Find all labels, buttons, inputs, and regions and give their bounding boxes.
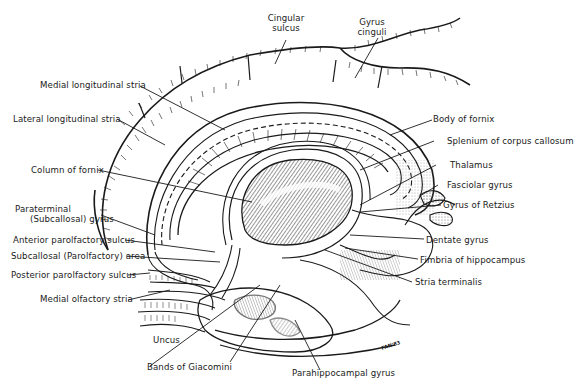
label-anterior-parolfactory-sulcus: Anterior parolfactory sulcus bbox=[13, 235, 135, 245]
label-line: Gyrus bbox=[358, 17, 387, 27]
label-posterior-parolfactory-sulcus: Posterior parolfactory sulcus bbox=[11, 270, 136, 280]
label-line: (Subcallosal) gyrus bbox=[15, 214, 114, 224]
thalamus bbox=[223, 141, 370, 258]
label-line: sulcus bbox=[268, 23, 305, 33]
label-line: Paraterminal bbox=[15, 204, 114, 214]
label-splenium: Splenium of corpus callosum bbox=[447, 136, 574, 146]
label-paraterminal-gyrus: Paraterminal (Subcallosal) gyrus bbox=[15, 204, 114, 224]
label-fimbria: Fimbria of hippocampus bbox=[420, 255, 525, 265]
label-parahippocampal-gyrus: Parahippocampal gyrus bbox=[292, 368, 395, 378]
label-cingular-sulcus: Cingular sulcus bbox=[268, 13, 305, 33]
label-line: cinguli bbox=[358, 27, 387, 37]
label-stria-terminalis: Stria terminalis bbox=[415, 277, 482, 287]
anatomy-diagram: Cingular sulcus Gyrus cinguli Medial lon… bbox=[0, 0, 574, 381]
label-thalamus: Thalamus bbox=[450, 160, 493, 170]
olfactory-structures bbox=[138, 270, 225, 332]
label-gyrus-cinguli: Gyrus cinguli bbox=[358, 17, 387, 37]
label-bands-of-giacomini: Bands of Giacomini bbox=[147, 362, 232, 372]
label-line: Cingular bbox=[268, 13, 305, 23]
label-medial-longitudinal-stria: Medial longitudinal stria bbox=[40, 80, 146, 90]
label-dentate-gyrus: Dentate gyrus bbox=[426, 235, 489, 245]
label-column-of-fornix: Column of fornix bbox=[31, 165, 104, 175]
label-fasciolar-gyrus: Fasciolar gyrus bbox=[447, 180, 513, 190]
label-body-of-fornix: Body of fornix bbox=[433, 114, 494, 124]
parahippocampal-gyrus bbox=[198, 288, 400, 356]
label-uncus: Uncus bbox=[153, 335, 180, 345]
label-lateral-longitudinal-stria: Lateral longitudinal stria bbox=[13, 114, 121, 124]
label-gyrus-of-retzius: Gyrus of Retzius bbox=[443, 200, 515, 210]
label-medial-olfactory-stria: Medial olfactory stria bbox=[40, 294, 133, 304]
brain-drawing bbox=[0, 0, 574, 381]
label-subcallosal-area: Subcallosal (Parolfactory) area bbox=[11, 251, 145, 261]
